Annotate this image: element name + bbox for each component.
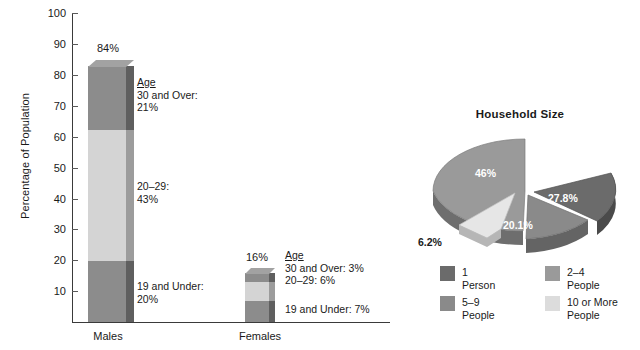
- x-category-label-females: Females: [228, 330, 292, 342]
- annotation-males-mid-line2: 43%: [137, 193, 158, 205]
- legend-swatch-5-9-people: [440, 296, 455, 311]
- y-tick-label-80: 80: [30, 70, 66, 80]
- y-tick-70: [72, 106, 78, 107]
- annotation-males-over30-line2: 21%: [137, 101, 158, 113]
- bar-segment-females-20-29: [245, 282, 269, 301]
- bar-males[interactable]: [88, 66, 126, 322]
- y-tick-100: [72, 13, 78, 14]
- annotation-males-19-and-under: 19 and Under: 20%: [137, 280, 204, 305]
- household-size-pie-chart: Household Size 46% 27.8% 20.1% 6.2%: [400, 0, 640, 350]
- pie-label-10more: 6.2%: [418, 236, 442, 248]
- legend-label-2-4-people: 2–4 People: [567, 266, 600, 291]
- bar-segment-males-20-29: [88, 130, 126, 261]
- legend-item-2-4-people[interactable]: 2–4 People: [545, 266, 600, 291]
- y-tick-label-30: 30: [30, 224, 66, 234]
- y-tick-20: [72, 260, 78, 261]
- legend-item-1-person[interactable]: 1 Person: [440, 266, 495, 291]
- y-tick-label-40: 40: [30, 194, 66, 204]
- legend-item-5-9-people[interactable]: 5–9 People: [440, 296, 495, 321]
- pie-svg: [425, 128, 625, 263]
- figure-root: Percentage of Population 100 90 80 70 60…: [0, 0, 640, 350]
- bar-females-side-face: [269, 268, 275, 322]
- legend-label-1-person-line2: Person: [462, 279, 495, 291]
- y-tick-label-60: 60: [30, 132, 66, 142]
- bar-males-total-label: 84%: [80, 42, 136, 54]
- y-tick-40: [72, 199, 78, 200]
- x-category-label-males: Males: [78, 330, 138, 342]
- y-tick-label-50: 50: [30, 163, 66, 173]
- annotation-males-over30-line1: 30 and Over:: [137, 89, 198, 101]
- legend-label-5-9-people-line2: People: [462, 309, 495, 321]
- annotation-males-20-29: 20–29: 43%: [137, 180, 169, 205]
- legend-swatch-1-person: [440, 266, 455, 281]
- annotation-males-age-header: Age: [137, 76, 156, 88]
- legend-label-2-4-people-line2: People: [567, 279, 600, 291]
- pie-label-1person: 27.8%: [548, 192, 578, 204]
- pie-chart-title: Household Size: [400, 108, 640, 120]
- annotation-females-age-header: Age: [285, 249, 304, 261]
- annotation-females-19-and-under: 19 and Under: 7%: [285, 303, 370, 316]
- y-tick-label-100: 100: [30, 8, 66, 18]
- y-tick-30: [72, 229, 78, 230]
- bar-females[interactable]: [245, 273, 269, 322]
- bar-segment-males-30-and-over: [88, 66, 126, 130]
- y-tick-label-90: 90: [30, 39, 66, 49]
- y-tick-label-10: 10: [30, 286, 66, 296]
- bar-males-side-face: [126, 60, 134, 322]
- annotation-males-mid-line1: 20–29:: [137, 180, 169, 192]
- y-tick-label-70: 70: [30, 101, 66, 111]
- y-tick-60: [72, 137, 78, 138]
- y-tick-80: [72, 75, 78, 76]
- legend-label-10-or-more-people-line1: 10 or More: [567, 296, 618, 308]
- stacked-bar-chart: Percentage of Population 100 90 80 70 60…: [0, 0, 400, 350]
- legend-label-2-4-people-line1: 2–4: [567, 266, 585, 278]
- legend-label-1-person-line1: 1: [462, 266, 468, 278]
- bar-segment-females-19-and-under: [245, 301, 269, 322]
- bar-females-total-label: 16%: [229, 251, 285, 263]
- y-tick-10: [72, 291, 78, 292]
- legend-label-5-9-people: 5–9 People: [462, 296, 495, 321]
- annotation-males-under-line1: 19 and Under:: [137, 280, 204, 292]
- legend-label-10-or-more-people-line2: People: [567, 309, 600, 321]
- bar-segment-males-19-and-under: [88, 261, 126, 322]
- y-tick-50: [72, 168, 78, 169]
- bar-segment-females-30-and-over: [245, 273, 269, 282]
- y-tick-90: [72, 44, 78, 45]
- legend-label-10-or-more-people: 10 or More People: [567, 296, 618, 321]
- legend-label-5-9-people-line1: 5–9: [462, 296, 480, 308]
- annotation-males-under-line2: 20%: [137, 293, 158, 305]
- legend-item-10-or-more-people[interactable]: 10 or More People: [545, 296, 618, 321]
- legend-swatch-10-or-more-people: [545, 296, 560, 311]
- pie-label-5to9: 20.1%: [503, 219, 533, 231]
- pie-label-2to4: 46%: [475, 167, 496, 179]
- bar-males-top-face: [88, 60, 134, 67]
- y-tick-label-20: 20: [30, 255, 66, 265]
- annotation-females-age: Age 30 and Over: 3% 20–29: 6%: [285, 249, 364, 287]
- annotation-females-mid: 20–29: 6%: [285, 274, 335, 286]
- legend-label-1-person: 1 Person: [462, 266, 495, 291]
- annotation-females-over30: 30 and Over: 3%: [285, 262, 364, 274]
- legend-swatch-2-4-people: [545, 266, 560, 281]
- annotation-females-under: 19 and Under: 7%: [285, 303, 370, 315]
- annotation-males-30-and-over: Age 30 and Over: 21%: [137, 76, 198, 114]
- x-axis-line: [72, 322, 390, 323]
